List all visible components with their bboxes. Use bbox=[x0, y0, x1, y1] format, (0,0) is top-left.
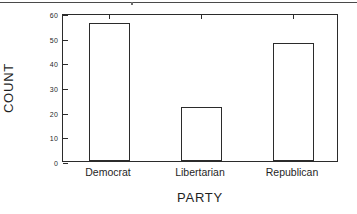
y-tick-mark bbox=[63, 15, 68, 16]
plot-area: 0102030405060 bbox=[62, 14, 338, 162]
y-tick-label: 10 bbox=[50, 135, 58, 142]
y-tick-label: 50 bbox=[50, 36, 58, 43]
y-tick-label: 20 bbox=[50, 110, 58, 117]
y-tick-mark bbox=[63, 89, 68, 90]
x-axis-title: PARTY bbox=[177, 191, 223, 204]
x-category-label: Democrat bbox=[85, 167, 131, 178]
x-category-label: Libertarian bbox=[175, 167, 225, 178]
bar-democrat bbox=[89, 23, 130, 161]
bar-libertarian bbox=[181, 107, 222, 161]
y-tick-label: 30 bbox=[50, 86, 58, 93]
bar-republican bbox=[273, 43, 314, 161]
y-tick-mark bbox=[63, 163, 68, 164]
y-tick-mark bbox=[63, 138, 68, 139]
bar-chart-figure: COUNT 0102030405060 DemocratLibertarianR… bbox=[0, 0, 357, 214]
x-tick-mark-top bbox=[293, 15, 294, 19]
x-tick-mark-top bbox=[201, 15, 202, 19]
y-axis-title: COUNT bbox=[2, 63, 15, 113]
x-tick-mark-top bbox=[109, 15, 110, 19]
y-tick-label: 0 bbox=[54, 160, 58, 167]
y-tick-mark bbox=[63, 40, 68, 41]
x-category-label: Republican bbox=[266, 167, 319, 178]
y-tick-label: 60 bbox=[50, 12, 58, 19]
y-tick-mark bbox=[63, 114, 68, 115]
y-tick-label: 40 bbox=[50, 61, 58, 68]
y-tick-mark bbox=[63, 64, 68, 65]
